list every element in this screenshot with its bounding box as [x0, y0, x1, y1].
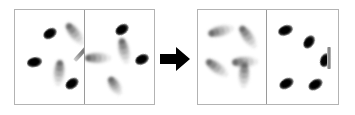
item-body: [63, 75, 82, 93]
figure-container: [0, 0, 355, 115]
before-right-panel-item-4: [105, 75, 124, 97]
before-right-panel-item-2: [116, 37, 131, 65]
before-left-panel: [15, 10, 84, 104]
item-motion-trail: [116, 37, 131, 65]
after-right-panel-item-3: [277, 75, 297, 92]
item-body: [318, 50, 335, 69]
before-right-panel: [84, 10, 154, 104]
target-bar-body: [327, 47, 331, 69]
item-body: [41, 25, 60, 42]
item-body: [134, 51, 153, 67]
item-motion-trail: [239, 62, 250, 88]
item-motion-trail: [85, 53, 111, 63]
item-motion-trail: [105, 75, 124, 97]
item-motion-trail: [236, 23, 259, 50]
after-left-panel-item-0: [207, 23, 235, 39]
item-body: [277, 75, 297, 92]
before-right-panel-item-1: [85, 53, 111, 63]
item-motion-trail: [207, 23, 235, 39]
item-body: [301, 32, 320, 51]
item-body: [113, 21, 132, 39]
after-right-panel-item-2: [318, 50, 335, 69]
item-motion-trail: [63, 21, 84, 48]
after-right-panel-item-1: [301, 32, 320, 51]
before-left-panel-item-2: [26, 56, 44, 69]
before-left-panel-item-1: [63, 21, 84, 48]
figure-before: [14, 9, 155, 105]
item-body: [306, 76, 326, 94]
before-left-panel-item-4: [63, 75, 82, 93]
before-right-panel-item-0: [113, 21, 132, 39]
item-body: [26, 56, 44, 69]
after-left-panel-item-2: [204, 56, 231, 79]
figure-after: [197, 9, 339, 105]
after-right-panel-item-4: [306, 76, 326, 94]
item-motion-trail: [204, 56, 231, 79]
right-arrow-icon: [160, 46, 190, 72]
before-left-panel-item-0: [41, 25, 60, 42]
after-right-panel-target-bar: [327, 47, 331, 69]
after-left-panel: [198, 10, 266, 104]
after-right-panel: [266, 10, 338, 104]
before-right-panel-item-3: [134, 51, 153, 67]
item-body: [277, 23, 297, 39]
after-left-panel-item-1: [236, 23, 259, 50]
after-left-panel-item-4: [239, 62, 250, 88]
after-right-panel-item-0: [277, 23, 297, 39]
